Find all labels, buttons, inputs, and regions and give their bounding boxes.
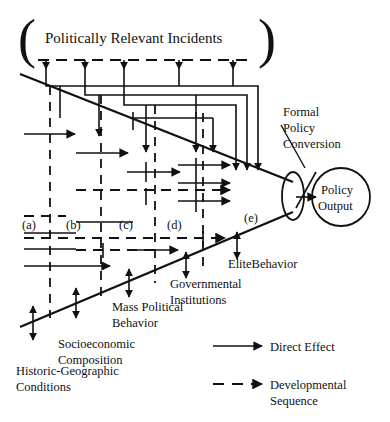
stage-label-b: (b): [66, 218, 81, 232]
legend-direct-effect-label: Direct Effect: [270, 340, 335, 354]
conversion-line3: Conversion: [283, 137, 341, 151]
output-line1: Policy: [321, 183, 354, 197]
crossing-ticks: [103, 158, 203, 258]
label-socioeconomic-line2: Composition: [58, 353, 123, 367]
stage-label-e: (e): [244, 211, 258, 225]
incident-dashed-bus: [38, 60, 252, 69]
right-parenthesis: ): [258, 9, 276, 69]
policy-output-node: [312, 168, 370, 226]
left-parenthesis: (: [18, 9, 36, 69]
legend-developmental-label2: Sequence: [270, 394, 318, 408]
funnel-top-edge: [20, 74, 293, 182]
label-elite: EliteBehavior: [228, 257, 298, 271]
page-title: Politically Relevant Incidents: [45, 30, 223, 46]
conversion-line2: Policy: [283, 121, 316, 135]
label-historic-line2: Conditions: [16, 380, 71, 394]
conversion-label: Formal Policy Conversion: [283, 105, 341, 151]
conversion-line1: Formal: [283, 105, 320, 119]
legend-developmental-label: Developmental: [270, 378, 347, 392]
label-mass-line2: Behavior: [112, 316, 159, 330]
top-path-3: [124, 69, 236, 170]
stage-labels: (a) (b) (c) (d) (e): [22, 211, 258, 232]
output-label: Policy Output: [318, 183, 354, 213]
label-governmental-line2: Institutions: [170, 293, 226, 307]
diagram-root: ( ) Politically Relevant Incidents: [0, 0, 390, 422]
label-governmental-line1: Governmental: [170, 277, 242, 291]
stage-label-d: (d): [167, 218, 182, 232]
stage-label-c: (c): [119, 218, 133, 232]
policy-process-diagram: ( ) Politically Relevant Incidents: [0, 0, 390, 422]
legend: Direct Effect Developmental Sequence: [213, 340, 347, 408]
horizontal-effect-arrows: [24, 134, 230, 266]
output-line2: Output: [318, 199, 353, 213]
label-socioeconomic-line1: Socioeconomic: [58, 337, 136, 351]
node-labels: Historic-Geographic Conditions Socioecon…: [16, 257, 298, 394]
stage-label-a: (a): [22, 218, 36, 232]
